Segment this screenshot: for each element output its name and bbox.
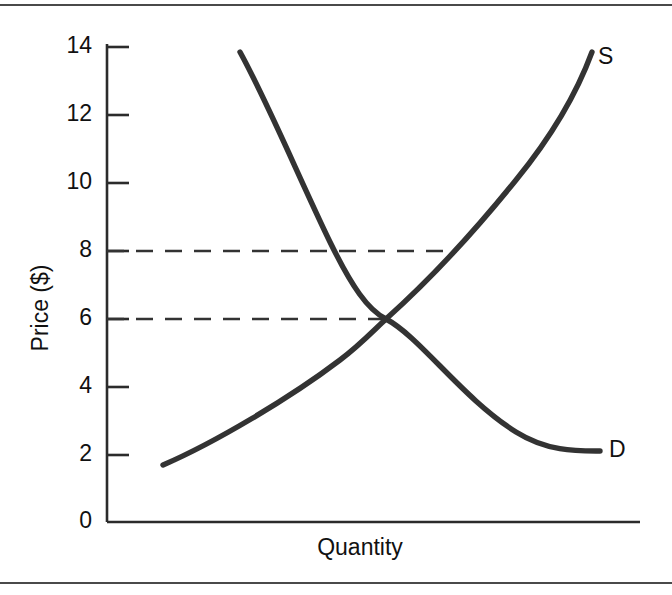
y-tick-label-12: 12 bbox=[66, 100, 92, 126]
x-axis-title: Quantity bbox=[317, 534, 403, 560]
figure-page: 14 12 10 8 6 4 2 0 S D Quantity Price ($… bbox=[0, 0, 672, 595]
bottom-divider-rule bbox=[0, 582, 672, 584]
y-axis-title: Price ($) bbox=[27, 265, 53, 352]
demand-curve-label: D bbox=[609, 436, 626, 462]
supply-curve-label: S bbox=[598, 43, 613, 69]
y-tick-label-14: 14 bbox=[66, 32, 92, 58]
y-tick-label-0: 0 bbox=[79, 507, 92, 533]
supply-demand-chart: 14 12 10 8 6 4 2 0 S D Quantity Price ($… bbox=[0, 8, 672, 580]
y-tick-label-4: 4 bbox=[79, 372, 92, 398]
y-tick-label-8: 8 bbox=[79, 236, 92, 262]
y-tick-label-6: 6 bbox=[79, 304, 92, 330]
y-tick-label-2: 2 bbox=[79, 440, 92, 466]
top-divider-rule bbox=[0, 4, 672, 6]
y-tick-label-10: 10 bbox=[66, 168, 92, 194]
